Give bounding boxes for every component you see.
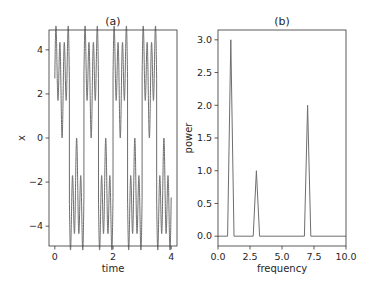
- y-tick-label: 2.5: [197, 67, 212, 78]
- x-tick-label: 0: [52, 251, 58, 262]
- x-tick-label: 10.0: [335, 251, 356, 262]
- panel-b-x-ticks: 0.02.55.07.510.0: [210, 246, 356, 262]
- panel-a-ylabel: x: [16, 135, 27, 141]
- panel-b-ylabel: power: [183, 122, 194, 154]
- y-tick-label: 2: [37, 88, 43, 99]
- y-tick-label: −2: [29, 176, 43, 187]
- x-tick-label: 5.0: [274, 251, 289, 262]
- x-tick-label: 0.0: [210, 251, 225, 262]
- y-tick-label: 4: [37, 44, 43, 55]
- x-tick-label: 4: [168, 251, 174, 262]
- panel-a: (a) 420−2−4 024 time x: [16, 15, 177, 274]
- x-tick-label: 7.5: [306, 251, 321, 262]
- power-spectrum-line: [218, 40, 346, 236]
- y-tick-label: 0.0: [197, 230, 212, 241]
- panel-b-power-line: [218, 40, 346, 236]
- panel-a-signal-line: [55, 26, 171, 250]
- x-tick-label: 2: [110, 251, 116, 262]
- panel-b-title: (b): [274, 15, 290, 28]
- y-tick-label: 0: [37, 132, 43, 143]
- y-tick-label: 1.0: [197, 165, 212, 176]
- panel-b-axes-frame: [218, 30, 346, 246]
- panel-b: (b) 0.00.51.01.52.02.53.0 0.02.55.07.510…: [183, 15, 357, 274]
- x-tick-label: 2.5: [242, 251, 257, 262]
- panel-a-xlabel: time: [102, 263, 125, 274]
- panel-a-title: (a): [105, 15, 120, 28]
- figure: (a) 420−2−4 024 time x (b) 0.00.51.01.52…: [0, 0, 371, 288]
- panel-b-y-ticks: 0.00.51.01.52.02.53.0: [197, 34, 218, 241]
- y-tick-label: 0.5: [197, 198, 212, 209]
- signal-line: [55, 26, 171, 250]
- panel-a-y-ticks: 420−2−4: [29, 44, 49, 231]
- y-tick-label: 1.5: [197, 132, 212, 143]
- y-tick-label: 3.0: [197, 34, 212, 45]
- y-tick-label: −4: [29, 220, 43, 231]
- y-tick-label: 2.0: [197, 100, 212, 111]
- panel-b-xlabel: frequency: [257, 263, 307, 274]
